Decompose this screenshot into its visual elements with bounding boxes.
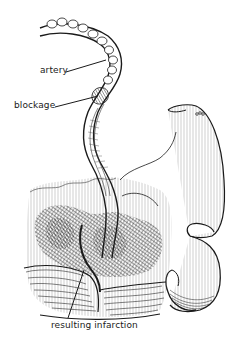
brain-infarction-illustration (0, 0, 238, 349)
artery-leader-line (66, 60, 106, 72)
blockage-clot (92, 87, 108, 104)
artery-label: artery (40, 66, 68, 75)
infarction-label: resulting infarction (51, 321, 138, 330)
blockage-label: blockage (14, 101, 55, 110)
brain-lower-right-lobe (166, 236, 220, 312)
brain-right-lobe (168, 105, 225, 238)
